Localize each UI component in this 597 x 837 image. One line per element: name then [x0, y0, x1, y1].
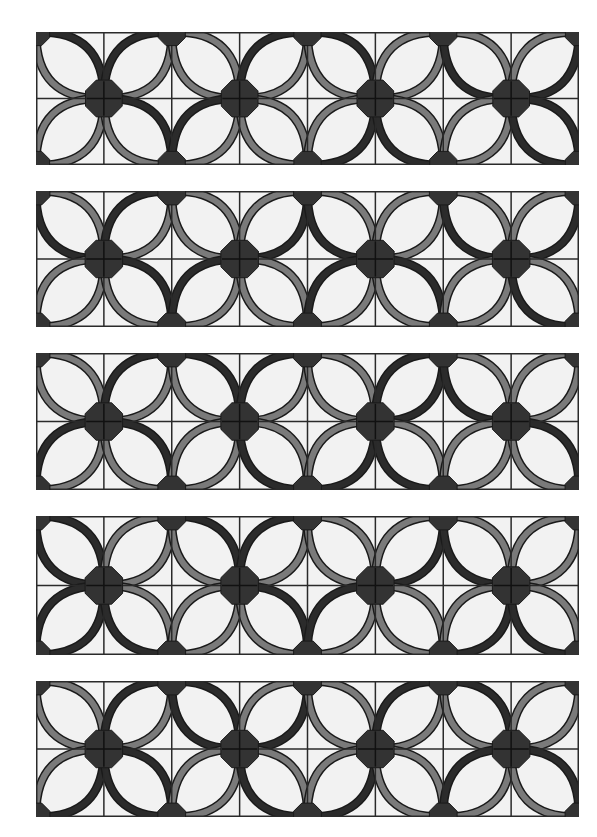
panel-3: [36, 353, 579, 490]
panel-5: [36, 681, 579, 817]
panel-2: [36, 191, 579, 327]
panel-1: [36, 32, 579, 165]
panel-4: [36, 516, 579, 655]
